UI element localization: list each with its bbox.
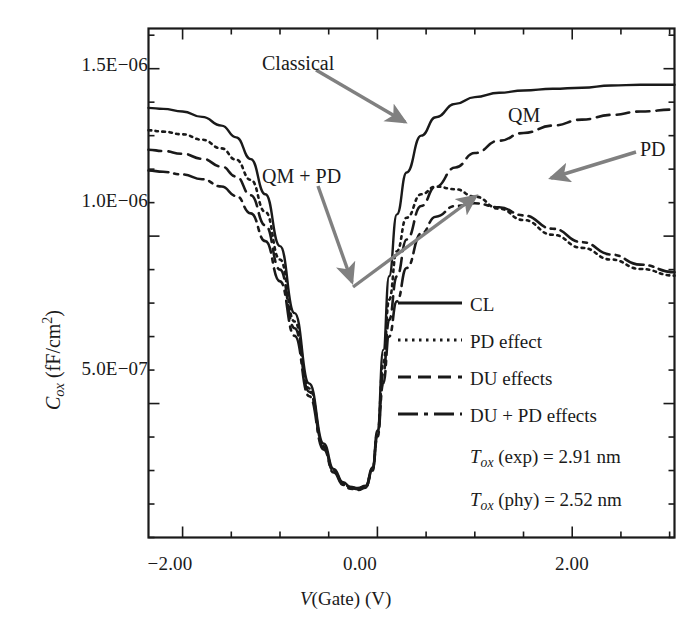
parameter-tox-phy-subscript: ox	[481, 498, 494, 513]
parameter-tox-phy-symbol: T	[470, 489, 481, 510]
legend-label-pd-effect: PD effect	[470, 331, 542, 353]
x-axis-title-symbol: V	[300, 588, 312, 609]
y-axis-title-units: (fF/cm	[42, 324, 64, 383]
annotation-classical: Classical	[262, 52, 334, 75]
legend-label-du-effects: DU effects	[470, 368, 552, 390]
x-tick-label-2: 0.00	[320, 553, 400, 575]
y-axis-title-wrap: Cox (fF/cm2)	[10, 250, 50, 410]
figure-cv-characteristics: 1.5E−06 1.0E−06 5.0E−07 −2.00 0.00 2.00 …	[0, 0, 699, 630]
y-axis-title-exponent: 2	[40, 317, 55, 324]
y-tick-label-2: 1.0E−06	[48, 190, 148, 212]
x-tick-label-3: 2.00	[532, 553, 612, 575]
x-axis-title-text: (Gate) (V)	[312, 588, 392, 609]
arrow-qm-pd-down	[318, 186, 352, 282]
x-axis-title: V(Gate) (V)	[300, 588, 391, 610]
annotation-arrows	[316, 70, 636, 287]
y-axis-title-subscript: ox	[51, 383, 67, 397]
plot-canvas	[0, 0, 699, 630]
curve-cl	[149, 85, 675, 488]
y-tick-label-1: 1.5E−06	[48, 54, 148, 76]
annotation-qm-pd: QM + PD	[262, 165, 341, 188]
y-axis-title-symbol: C	[42, 397, 64, 410]
annotation-pd: PD	[640, 138, 666, 161]
legend-sample-lines	[398, 303, 462, 414]
parameter-tox-exp-text: (exp) = 2.91 nm	[493, 446, 620, 467]
parameter-tox-phy-text: (phy) = 2.52 nm	[493, 489, 621, 510]
arrow-qm-pd-up	[353, 196, 476, 287]
parameter-tox-exp-subscript: ox	[481, 455, 494, 470]
data-curves	[149, 85, 675, 490]
parameter-tox-exp-symbol: T	[470, 446, 481, 467]
annotation-qm: QM	[508, 104, 540, 127]
parameter-tox-phy: Tox (phy) = 2.52 nm	[470, 489, 622, 514]
legend-label-cl: CL	[470, 294, 494, 316]
legend-label-du-pd-effects: DU + PD effects	[470, 405, 597, 427]
curve-pd-effect	[149, 130, 675, 488]
y-axis-title-close: )	[42, 310, 64, 317]
arrow-classical	[316, 70, 405, 122]
y-axis-title: Cox (fF/cm2)	[40, 310, 68, 410]
curve-du-pd-effects	[149, 170, 675, 489]
arrow-pd	[551, 152, 636, 178]
parameter-tox-exp: Tox (exp) = 2.91 nm	[470, 446, 621, 471]
x-tick-label-1: −2.00	[130, 553, 210, 575]
